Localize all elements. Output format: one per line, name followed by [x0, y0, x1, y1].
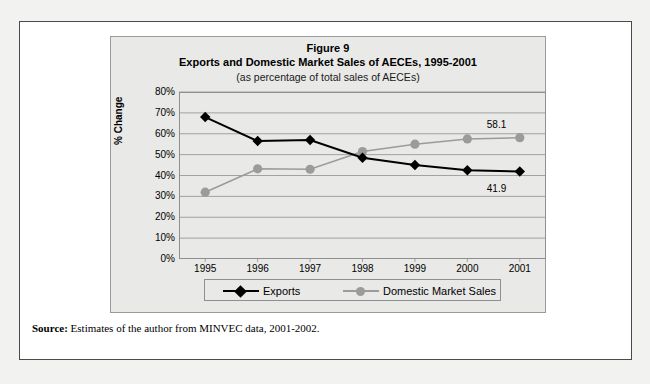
legend-item-exports[interactable]: Exports	[223, 283, 300, 299]
x-tick-label: 1999	[395, 263, 435, 275]
x-axis-ticks: 1995199619971998199920002001	[179, 263, 546, 277]
source-text: Estimates of the author from MINVEC data…	[68, 322, 320, 334]
x-tick-label: 1996	[238, 263, 278, 275]
source-note: Source: Estimates of the author from MIN…	[32, 322, 320, 334]
figure-title: Exports and Domestic Market Sales of AEC…	[111, 55, 545, 70]
data-point-marker	[410, 160, 420, 170]
figure-note: (as percentage of total sales of AECEs)	[111, 70, 545, 85]
data-point-marker	[252, 136, 262, 146]
x-tick-label: 2001	[500, 263, 540, 275]
data-point-marker	[463, 134, 472, 143]
domestic-marker-icon	[343, 285, 379, 297]
y-axis-title: % Change	[113, 97, 124, 145]
exports-marker-icon	[223, 285, 259, 297]
y-tick-label: 0%	[135, 254, 175, 264]
y-tick-label: 60%	[135, 129, 175, 139]
data-label: 58.1	[487, 119, 506, 130]
series-line	[205, 117, 520, 171]
y-tick-label: 50%	[135, 150, 175, 160]
data-label: 41.9	[487, 183, 506, 194]
chart-legend: Exports Domestic Market Sales	[204, 279, 501, 301]
legend-label-exports: Exports	[263, 284, 300, 298]
x-tick-label: 1997	[290, 263, 330, 275]
x-tick-label: 1998	[343, 263, 383, 275]
data-point-marker	[410, 140, 419, 149]
y-tick-label: 20%	[135, 212, 175, 222]
data-point-marker	[305, 135, 315, 145]
chart-title-block: Figure 9 Exports and Domestic Market Sal…	[111, 41, 545, 85]
y-tick-label: 10%	[135, 233, 175, 243]
source-prefix: Source:	[32, 322, 68, 334]
figure-container: Figure 9 Exports and Domestic Market Sal…	[19, 21, 632, 360]
series-line	[205, 138, 520, 192]
data-point-marker	[200, 112, 210, 122]
chart-panel: Figure 9 Exports and Domestic Market Sal…	[110, 36, 546, 313]
y-tick-label: 40%	[135, 171, 175, 181]
series-canvas	[179, 92, 546, 259]
y-tick-label: 80%	[135, 87, 175, 97]
legend-item-domestic[interactable]: Domestic Market Sales	[343, 283, 496, 299]
y-axis-ticks: 0%10%20%30%40%50%60%70%80%	[129, 92, 175, 259]
data-point-marker	[305, 165, 314, 174]
x-tick-label: 1995	[185, 263, 225, 275]
data-point-marker	[253, 164, 262, 173]
data-point-marker	[462, 165, 472, 175]
x-tick-label: 2000	[447, 263, 487, 275]
data-point-marker	[515, 133, 524, 142]
page-background: Figure 9 Exports and Domestic Market Sal…	[0, 0, 650, 384]
y-tick-label: 30%	[135, 191, 175, 201]
figure-number: Figure 9	[111, 41, 545, 55]
y-tick-label: 70%	[135, 108, 175, 118]
legend-label-domestic: Domestic Market Sales	[383, 284, 496, 298]
data-point-marker	[201, 188, 210, 197]
plot-area: 58.141.9	[179, 92, 546, 259]
